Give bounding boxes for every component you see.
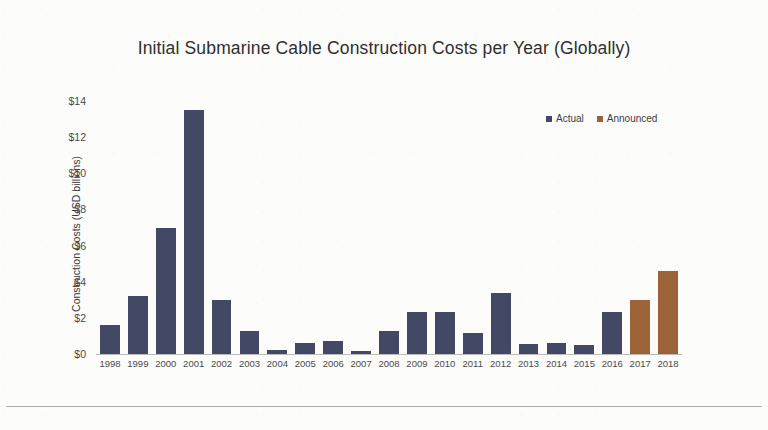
- bar-slot: [375, 101, 403, 354]
- x-axis-tick-label: 2017: [626, 358, 654, 369]
- bar-slot: [180, 101, 208, 354]
- bar-2009[interactable]: [407, 312, 427, 354]
- bar-slot: [543, 101, 571, 354]
- scanned-page: Initial Submarine Cable Construction Cos…: [0, 0, 768, 430]
- bar-slot: [124, 101, 152, 354]
- x-axis-tick-labels: 1998199920002001200220032004200520062007…: [96, 358, 682, 369]
- y-axis-tick-label: $6: [50, 240, 86, 252]
- bar-2006[interactable]: [323, 341, 343, 354]
- x-axis-tick-label: 2009: [403, 358, 431, 369]
- x-axis-tick-label: 2000: [152, 358, 180, 369]
- bar-2017[interactable]: [630, 300, 650, 354]
- bar-slot: [291, 101, 319, 354]
- bar-2011[interactable]: [463, 333, 483, 354]
- x-axis-tick-label: 2014: [543, 358, 571, 369]
- bar-slot: [598, 101, 626, 354]
- bar-slot: [654, 101, 682, 354]
- bar-2005[interactable]: [295, 343, 315, 354]
- plot-area: [96, 101, 682, 354]
- bar-1999[interactable]: [128, 296, 148, 354]
- bar-2012[interactable]: [491, 293, 511, 354]
- x-axis-tick-label: 1998: [96, 358, 124, 369]
- bar-slot: [152, 101, 180, 354]
- x-axis-tick-label: 2015: [570, 358, 598, 369]
- bar-2018[interactable]: [658, 271, 678, 354]
- bar-slot: [263, 101, 291, 354]
- bar-2003[interactable]: [240, 331, 260, 354]
- x-axis-tick-label: 2010: [431, 358, 459, 369]
- bar-1998[interactable]: [100, 325, 120, 354]
- x-axis-tick-label: 2006: [319, 358, 347, 369]
- bar-2014[interactable]: [547, 343, 567, 354]
- bar-slot: [431, 101, 459, 354]
- x-axis-line: [96, 354, 682, 355]
- x-axis-tick-label: 2003: [236, 358, 264, 369]
- bar-2001[interactable]: [184, 110, 204, 354]
- x-axis-tick-label: 2004: [263, 358, 291, 369]
- x-axis-tick-label: 2008: [375, 358, 403, 369]
- page-divider-rule: [6, 406, 762, 407]
- bar-slot: [626, 101, 654, 354]
- bar-series-container: [96, 101, 682, 354]
- chart-legend: ActualAnnounced: [546, 113, 657, 124]
- y-axis-tick-label: $10: [50, 167, 86, 179]
- x-axis-tick-label: 2001: [180, 358, 208, 369]
- legend-item-actual[interactable]: Actual: [546, 113, 584, 124]
- bar-2000[interactable]: [156, 228, 176, 355]
- y-axis-tick-labels: $14$12$10$8$6$4$2$0: [48, 0, 86, 400]
- bar-2016[interactable]: [602, 312, 622, 354]
- y-axis-tick-label: $8: [50, 203, 86, 215]
- x-axis-tick-label: 1999: [124, 358, 152, 369]
- x-axis-tick-label: 2002: [208, 358, 236, 369]
- bar-2013[interactable]: [519, 344, 539, 354]
- bar-2007[interactable]: [351, 351, 371, 354]
- legend-label: Announced: [607, 113, 658, 124]
- legend-label: Actual: [556, 113, 584, 124]
- x-axis-tick-label: 2013: [515, 358, 543, 369]
- bar-2004[interactable]: [267, 350, 287, 354]
- bar-2008[interactable]: [379, 331, 399, 354]
- bar-slot: [570, 101, 598, 354]
- legend-item-announced[interactable]: Announced: [597, 113, 658, 124]
- bar-2015[interactable]: [574, 345, 594, 354]
- x-axis-tick-label: 2012: [487, 358, 515, 369]
- bar-slot: [459, 101, 487, 354]
- x-axis-tick-label: 2007: [347, 358, 375, 369]
- bar-slot: [96, 101, 124, 354]
- y-axis-tick-label: $0: [50, 348, 86, 360]
- bar-slot: [515, 101, 543, 354]
- x-axis-tick-label: 2011: [459, 358, 487, 369]
- legend-swatch-icon: [597, 116, 603, 122]
- x-axis-tick-label: 2016: [598, 358, 626, 369]
- legend-swatch-icon: [546, 116, 552, 122]
- y-axis-tick-label: $2: [50, 312, 86, 324]
- bar-slot: [319, 101, 347, 354]
- y-axis-tick-label: $4: [50, 276, 86, 288]
- bar-slot: [347, 101, 375, 354]
- chart-plot-wrapper: Construction Costs (USD billions) $14$12…: [0, 0, 768, 400]
- bar-slot: [487, 101, 515, 354]
- y-axis-tick-label: $12: [50, 131, 86, 143]
- x-axis-tick-label: 2005: [291, 358, 319, 369]
- bar-slot: [403, 101, 431, 354]
- bar-2002[interactable]: [212, 300, 232, 354]
- bar-slot: [208, 101, 236, 354]
- bar-2010[interactable]: [435, 312, 455, 354]
- y-axis-tick-label: $14: [50, 95, 86, 107]
- x-axis-tick-label: 2018: [654, 358, 682, 369]
- bar-slot: [236, 101, 264, 354]
